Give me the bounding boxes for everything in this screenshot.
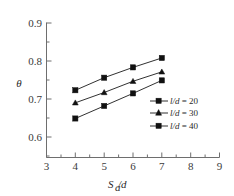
y-axis-ticks xyxy=(47,23,52,156)
x-tick-label: 4 xyxy=(73,160,79,172)
x-tick-label: 7 xyxy=(159,160,165,172)
legend-marker-square xyxy=(156,123,161,128)
y-tick-label: 0.6 xyxy=(28,131,42,143)
data-point-triangle xyxy=(159,69,165,74)
legend-item[interactable]: l/d = 20 xyxy=(150,96,199,106)
y-tick-label: 0.8 xyxy=(28,55,42,67)
data-point-square xyxy=(130,65,135,70)
legend-label-1: l/d = 30 xyxy=(170,108,199,118)
data-point-square xyxy=(102,103,107,108)
x-axis-title-main: S xyxy=(108,178,114,190)
x-tick-label: 3 xyxy=(44,160,50,172)
data-point-square xyxy=(102,75,107,80)
series-layer xyxy=(72,55,164,121)
legend-label-var-0: l/d xyxy=(170,96,180,106)
data-point-square xyxy=(130,91,135,96)
series-line xyxy=(75,58,162,90)
y-tick-label: 0.7 xyxy=(28,93,42,105)
x-axis-title: S a /d xyxy=(108,178,127,193)
x-tick-label: 5 xyxy=(101,160,107,172)
data-point-square xyxy=(73,116,78,121)
x-tick-label: 6 xyxy=(130,160,136,172)
x-tick-label: 8 xyxy=(188,160,194,172)
data-point-square xyxy=(159,55,164,60)
legend-item[interactable]: l/d = 30 xyxy=(150,108,199,118)
legend-label-var-2: l/d xyxy=(170,121,180,131)
x-tick-labels: 3 4 5 6 7 8 9 xyxy=(44,160,223,172)
data-point-square xyxy=(73,88,78,93)
chart-legend: l/d = 20 l/d = 30 l/d = 40 xyxy=(150,96,199,131)
x-axis-ticks xyxy=(47,153,220,158)
data-point-square xyxy=(159,78,164,83)
y-tick-label: 0.9 xyxy=(28,17,42,29)
x-tick-label: 9 xyxy=(217,160,223,172)
legend-label-val-0: = 20 xyxy=(180,96,199,106)
legend-marker-square xyxy=(156,98,161,103)
y-axis-title: θ xyxy=(16,77,22,89)
chart-figure: 0.9 0.8 0.7 0.6 3 4 5 6 7 8 9 θ S a /d xyxy=(0,0,234,196)
legend-label-var-1: l/d xyxy=(170,108,180,118)
legend-marker-triangle xyxy=(156,110,162,116)
series-line xyxy=(75,80,162,118)
legend-label-val-1: = 30 xyxy=(180,108,199,118)
legend-item[interactable]: l/d = 40 xyxy=(150,121,199,131)
axis-lines xyxy=(47,23,220,158)
legend-label-2: l/d = 40 xyxy=(170,121,199,131)
series-2 xyxy=(73,78,165,121)
legend-label-val-2: = 40 xyxy=(180,121,199,131)
y-tick-labels: 0.9 0.8 0.7 0.6 xyxy=(28,17,42,143)
legend-label-0: l/d = 20 xyxy=(170,96,199,106)
series-line xyxy=(75,72,162,103)
x-axis-title-tail: /d xyxy=(117,178,127,190)
line-chart: 0.9 0.8 0.7 0.6 3 4 5 6 7 8 9 θ S a /d xyxy=(0,0,234,196)
